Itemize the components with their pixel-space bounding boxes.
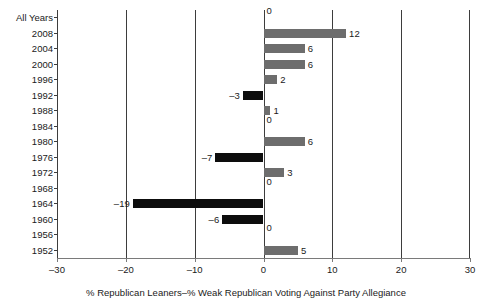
bar-row: 2 <box>57 72 470 88</box>
y-axis-label-1968: 1968 <box>1 181 53 197</box>
bar-2008 <box>264 29 347 38</box>
y-axis-label-2004: 2004 <box>1 41 53 57</box>
y-axis-tick <box>54 48 57 49</box>
x-axis-tick-mark <box>401 258 402 262</box>
horizontal-bar-chart: All Years2008200420001996199219881984198… <box>0 0 492 308</box>
x-axis-tick-label: 0 <box>261 264 266 275</box>
y-axis-tick <box>54 95 57 96</box>
bar-row: 5 <box>57 243 470 259</box>
y-axis-label-1992: 1992 <box>1 88 53 104</box>
y-axis-tick <box>54 250 57 251</box>
y-axis-tick <box>54 219 57 220</box>
x-axis-tick-mark <box>264 258 265 262</box>
x-axis-tick-mark <box>126 258 127 262</box>
bar-row: 12 <box>57 26 470 42</box>
bar-value-label: 12 <box>349 26 360 42</box>
bar-row: 6 <box>57 134 470 150</box>
bar-row: 0 <box>57 10 470 26</box>
y-axis-tick <box>54 64 57 65</box>
bar-value-label: 0 <box>267 3 272 19</box>
y-axis-label-2000: 2000 <box>1 57 53 73</box>
y-axis-label-1956: 1956 <box>1 227 53 243</box>
bar-2004 <box>264 44 305 53</box>
bar-1980 <box>264 137 305 146</box>
bar-value-label: –7 <box>187 150 212 166</box>
y-axis-tick <box>54 234 57 235</box>
bar-1952 <box>264 246 298 255</box>
y-axis-label-1952: 1952 <box>1 243 53 259</box>
y-axis-tick <box>54 188 57 189</box>
x-axis-tick-mark <box>195 258 196 262</box>
bar-value-label: 5 <box>301 243 306 259</box>
bar-1960 <box>222 215 263 224</box>
bar-value-label: –6 <box>194 212 219 228</box>
y-axis-label-1980: 1980 <box>1 134 53 150</box>
y-axis-label-1988: 1988 <box>1 103 53 119</box>
x-axis-tick-label: 30 <box>465 264 476 275</box>
plot-area: 012662–3106–730–19–605 –30–20–100102030 <box>57 10 470 258</box>
bar-row: 6 <box>57 41 470 57</box>
y-axis-category-labels: All Years2008200420001996199219881984198… <box>0 10 53 258</box>
bar-1992 <box>243 91 264 100</box>
x-axis-tick-label: 20 <box>396 264 407 275</box>
bar-row: 0 <box>57 119 470 135</box>
y-axis-label-1964: 1964 <box>1 196 53 212</box>
x-axis-title: % Republican Leaners–% Weak Republican V… <box>0 287 492 298</box>
y-axis-label-1984: 1984 <box>1 119 53 135</box>
y-axis-tick <box>54 141 57 142</box>
bar-value-label: 6 <box>308 134 313 150</box>
bar-value-label: 3 <box>287 165 292 181</box>
y-axis-label-2008: 2008 <box>1 26 53 42</box>
y-axis-tick <box>54 33 57 34</box>
y-axis-tick <box>54 157 57 158</box>
bar-value-label: 0 <box>267 174 272 190</box>
y-axis-label-1976: 1976 <box>1 150 53 166</box>
x-axis-tick-label: –20 <box>118 264 134 275</box>
y-axis-label-1996: 1996 <box>1 72 53 88</box>
bar-1996 <box>264 75 278 84</box>
y-axis-tick <box>54 110 57 111</box>
x-axis-tick-label: –10 <box>187 264 203 275</box>
bar-row: 0 <box>57 181 470 197</box>
bar-row: –3 <box>57 88 470 104</box>
y-axis-tick <box>54 17 57 18</box>
bar-value-label: 1 <box>273 103 278 119</box>
bar-row: 6 <box>57 57 470 73</box>
bar-value-label: 2 <box>280 72 285 88</box>
bar-row: 1 <box>57 103 470 119</box>
y-axis-tick <box>54 172 57 173</box>
bar-value-label: 0 <box>267 220 272 236</box>
bar-row: –6 <box>57 212 470 228</box>
y-axis-tick <box>54 203 57 204</box>
bar-row: –19 <box>57 196 470 212</box>
x-axis-tick-label: –30 <box>49 264 65 275</box>
bar-1976 <box>215 153 263 162</box>
y-axis-label-1960: 1960 <box>1 212 53 228</box>
bar-value-label: 6 <box>308 57 313 73</box>
bar-value-label: 6 <box>308 41 313 57</box>
y-axis-label-1972: 1972 <box>1 165 53 181</box>
bar-value-label: –3 <box>215 88 240 104</box>
bar-2000 <box>264 60 305 69</box>
x-axis-tick-mark <box>57 258 58 262</box>
x-axis-tick-mark <box>470 258 471 262</box>
bar-row: –7 <box>57 150 470 166</box>
bar-row: 0 <box>57 227 470 243</box>
bar-value-label: –19 <box>105 196 130 212</box>
x-axis-tick-mark <box>332 258 333 262</box>
y-axis-tick <box>54 126 57 127</box>
bar-row: 3 <box>57 165 470 181</box>
bar-value-label: 0 <box>267 112 272 128</box>
bar-1964 <box>133 199 264 208</box>
x-axis-tick-label: 10 <box>327 264 338 275</box>
y-axis-tick <box>54 79 57 80</box>
y-axis-label-all-years: All Years <box>1 10 53 26</box>
